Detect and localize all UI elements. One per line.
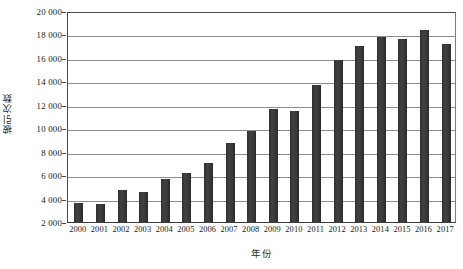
y-axis-tick-mark	[62, 35, 66, 36]
y-axis-tick-label: 12 000	[37, 101, 62, 111]
y-axis-tick-label: 10 000	[37, 124, 62, 134]
y-axis-tick-mark	[62, 200, 66, 201]
x-axis-tick-label: 2011	[307, 225, 324, 234]
bar	[118, 190, 127, 222]
y-axis-tick-mark	[62, 12, 66, 13]
bar	[96, 204, 105, 222]
x-axis-tick-label: 2013	[350, 225, 367, 234]
bar	[420, 30, 429, 222]
x-axis-tick-label: 2007	[221, 225, 238, 234]
y-axis-tick-mark	[62, 176, 66, 177]
bar	[226, 143, 235, 222]
x-axis-tick-label: 2008	[242, 225, 259, 234]
y-axis-tick-label: 16 000	[37, 54, 62, 64]
y-axis-tick-label: 20 000	[37, 7, 62, 17]
x-axis-title: 年份	[67, 246, 456, 260]
x-axis-tick-label: 2003	[134, 225, 151, 234]
y-axis-tick-mark	[62, 59, 66, 60]
plot-area	[67, 12, 456, 223]
bar	[182, 173, 191, 222]
x-axis-tick-label: 2006	[199, 225, 216, 234]
y-axis-tick-label: 2 000	[41, 218, 62, 228]
y-axis-tick-labels: 2 0004 0006 0008 00010 00012 00014 00016…	[14, 0, 66, 225]
x-axis-tick-label: 2009	[264, 225, 281, 234]
x-axis-tick-label: 2014	[372, 225, 389, 234]
bar	[290, 111, 299, 222]
y-axis-tick-mark	[62, 153, 66, 154]
bar	[442, 44, 451, 222]
y-axis-tick-mark	[62, 129, 66, 130]
x-axis-tick-label: 2001	[91, 225, 108, 234]
y-axis-tick-mark	[62, 106, 66, 107]
x-axis-tick-label: 2002	[112, 225, 129, 234]
bar	[398, 39, 407, 222]
x-axis-tick-label: 2000	[69, 225, 86, 234]
y-axis-tick-mark	[62, 82, 66, 83]
x-axis-tick-label: 2012	[329, 225, 346, 234]
bar	[312, 85, 321, 222]
bar-chart: 被引次数 2 0004 0006 0008 00010 00012 00014 …	[0, 0, 463, 269]
x-axis-tick-label: 2016	[415, 225, 432, 234]
bar	[269, 109, 278, 222]
bar	[161, 179, 170, 222]
bar	[204, 163, 213, 222]
x-axis-tick-label: 2017	[437, 225, 454, 234]
x-axis-tick-label: 2004	[156, 225, 173, 234]
y-axis-tick-label: 4 000	[41, 195, 62, 205]
x-axis-tick-label: 2010	[285, 225, 302, 234]
bar	[74, 203, 83, 222]
y-axis-tick-label: 8 000	[41, 148, 62, 158]
y-axis-title-text: 被引次数	[1, 92, 15, 134]
bars-layer	[68, 13, 455, 222]
y-axis-tick-label: 6 000	[41, 171, 62, 181]
x-axis-tick-labels: 2000200120022003200420052006200720082009…	[67, 225, 456, 239]
x-axis-tick-label: 2015	[393, 225, 410, 234]
y-axis-tick-mark	[62, 223, 66, 224]
x-axis-tick-label: 2005	[177, 225, 194, 234]
bar	[355, 46, 364, 222]
bar	[334, 60, 343, 222]
bar	[377, 37, 386, 222]
bar	[247, 131, 256, 222]
y-axis-tick-label: 14 000	[37, 77, 62, 87]
bar	[139, 192, 148, 222]
y-axis-tick-label: 18 000	[37, 30, 62, 40]
